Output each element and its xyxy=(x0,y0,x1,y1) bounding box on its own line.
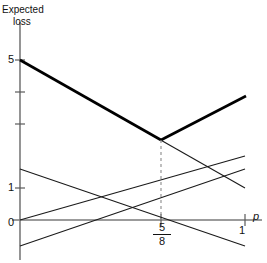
x-tick-label-five-eighths: 5 8 xyxy=(153,222,171,247)
expected-loss-chart: Expected loss 5 1 0 5 8 1 p xyxy=(0,0,267,263)
y-axis-title-line2: loss xyxy=(13,16,31,28)
x-tick-label-1: 1 xyxy=(239,224,245,236)
y-tick-label-0: 0 xyxy=(0,216,14,228)
y-tick-label-5: 5 xyxy=(0,53,14,65)
fraction-numerator: 5 xyxy=(153,222,171,235)
chart-plot-area xyxy=(0,0,267,263)
series-upper-envelope-increasing xyxy=(161,96,246,140)
series-upper-envelope-decreasing xyxy=(20,60,161,140)
y-tick-label-1: 1 xyxy=(0,181,14,193)
fraction-denominator: 8 xyxy=(153,235,171,247)
y-axis-title-line1: Expected xyxy=(2,4,44,16)
x-axis-title: p xyxy=(253,210,259,222)
series-increasing-line xyxy=(20,156,245,220)
